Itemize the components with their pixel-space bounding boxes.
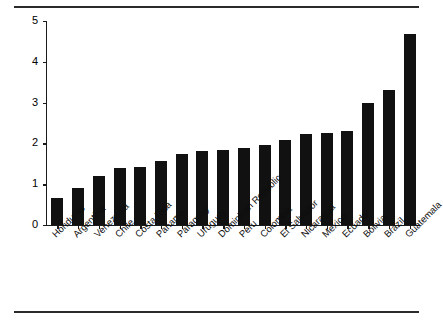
- bar: [341, 131, 353, 225]
- bar: [404, 34, 416, 225]
- y-tick-label: 2: [32, 136, 38, 149]
- y-tick-label: 5: [32, 14, 38, 27]
- bar: [134, 167, 146, 225]
- y-tick-mark: [43, 184, 47, 185]
- y-tick-label: 3: [32, 96, 38, 109]
- top-divider-rule: [14, 6, 419, 8]
- plot-area: 012345: [47, 21, 420, 225]
- y-tick-label: 4: [32, 55, 38, 68]
- y-tick-mark: [43, 103, 47, 104]
- y-tick-mark: [43, 143, 47, 144]
- y-tick-mark: [43, 21, 47, 22]
- y-tick-label: 1: [32, 177, 38, 190]
- bar: [383, 90, 395, 225]
- y-tick-label: 0: [32, 218, 38, 231]
- bottom-divider-rule: [14, 311, 419, 313]
- y-tick-mark: [43, 225, 47, 226]
- y-tick-mark: [43, 62, 47, 63]
